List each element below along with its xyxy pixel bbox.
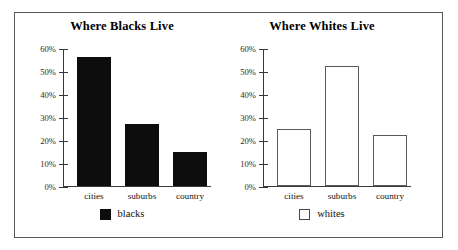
x-axis-label-country: country bbox=[363, 192, 417, 201]
x-axis-label-suburbs: suburbs bbox=[115, 192, 169, 201]
y-axis-tick-label: 50% bbox=[240, 68, 256, 77]
y-axis-tick-label: 40% bbox=[40, 91, 56, 100]
y-axis-tick bbox=[259, 141, 268, 142]
legend-label-blacks: blacks bbox=[118, 209, 145, 220]
y-axis-tick-label: 0% bbox=[245, 183, 256, 192]
y-axis-tick bbox=[259, 49, 268, 50]
bar-cities bbox=[277, 129, 311, 187]
y-axis-tick bbox=[259, 187, 268, 188]
y-axis-tick bbox=[59, 187, 68, 188]
y-axis-tick bbox=[59, 141, 68, 142]
y-axis-tick-label: 60% bbox=[240, 45, 256, 54]
figure-frame: Where Blacks Live 60%50%40%30%20%10%0%ci… bbox=[14, 12, 443, 238]
y-axis-tick-label: 30% bbox=[40, 114, 56, 123]
y-axis-tick bbox=[59, 95, 68, 96]
legend-swatch-whites-icon bbox=[299, 209, 310, 220]
chart-panel-blacks: Where Blacks Live 60%50%40%30%20%10%0%ci… bbox=[15, 13, 229, 239]
chart-title-whites: Where Whites Live bbox=[215, 19, 429, 34]
x-axis-label-cities: cities bbox=[267, 192, 321, 201]
y-axis-tick-label: 10% bbox=[240, 160, 256, 169]
y-axis-tick-label: 10% bbox=[40, 160, 56, 169]
legend-whites: whites bbox=[215, 209, 429, 220]
y-axis-tick bbox=[259, 72, 268, 73]
y-axis-tick bbox=[59, 72, 68, 73]
x-axis-label-suburbs: suburbs bbox=[315, 192, 369, 201]
bar-cities bbox=[77, 57, 111, 186]
y-axis-tick-label: 20% bbox=[240, 137, 256, 146]
y-axis-tick bbox=[259, 95, 268, 96]
y-axis-tick-label: 30% bbox=[240, 114, 256, 123]
bar-country bbox=[373, 135, 407, 186]
x-axis-label-cities: cities bbox=[67, 192, 121, 201]
x-axis-label-country: country bbox=[163, 192, 217, 201]
y-axis-tick bbox=[259, 164, 268, 165]
y-axis-tick-label: 60% bbox=[40, 45, 56, 54]
figure-canvas: Where Blacks Live 60%50%40%30%20%10%0%ci… bbox=[0, 0, 458, 250]
y-axis-tick bbox=[59, 164, 68, 165]
y-axis-tick bbox=[59, 118, 68, 119]
bar-suburbs bbox=[125, 124, 159, 186]
bar-suburbs bbox=[325, 66, 359, 186]
y-axis-tick-label: 20% bbox=[40, 137, 56, 146]
chart-panel-whites: Where Whites Live 60%50%40%30%20%10%0%ci… bbox=[215, 13, 429, 239]
legend-blacks: blacks bbox=[15, 209, 229, 220]
y-axis-tick-label: 40% bbox=[240, 91, 256, 100]
plot-area-whites: 60%50%40%30%20%10%0%citiessuburbscountry bbox=[263, 49, 411, 187]
bar-country bbox=[173, 152, 207, 187]
y-axis-tick bbox=[259, 118, 268, 119]
y-axis-tick-label: 0% bbox=[45, 183, 56, 192]
legend-label-whites: whites bbox=[317, 209, 344, 220]
y-axis-tick bbox=[59, 49, 68, 50]
chart-title-blacks: Where Blacks Live bbox=[15, 19, 229, 34]
plot-area-blacks: 60%50%40%30%20%10%0%citiessuburbscountry bbox=[63, 49, 211, 187]
y-axis-tick-label: 50% bbox=[40, 68, 56, 77]
legend-swatch-blacks-icon bbox=[100, 209, 111, 220]
